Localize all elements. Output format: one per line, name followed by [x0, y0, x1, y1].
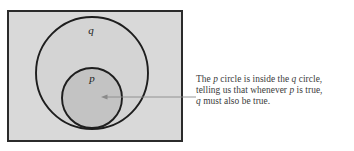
q-circle-label: q [88, 24, 94, 36]
annotation-caption: The p circle is inside the q circle,tell… [196, 74, 354, 108]
caption-variable-q: q [196, 96, 201, 106]
p-circle-label: p [88, 72, 95, 84]
caption-line-1: The p circle is inside the q circle, [196, 74, 354, 85]
caption-variable-p: p [213, 74, 218, 84]
caption-line-3: q must also be true. [196, 96, 354, 107]
caption-line-2: telling us that whenever p is true, [196, 85, 354, 96]
caption-variable-q: q [292, 74, 297, 84]
caption-variable-p: p [289, 85, 294, 95]
venn-diagram-figure: q p The p circle is inside the q circle,… [0, 0, 354, 151]
